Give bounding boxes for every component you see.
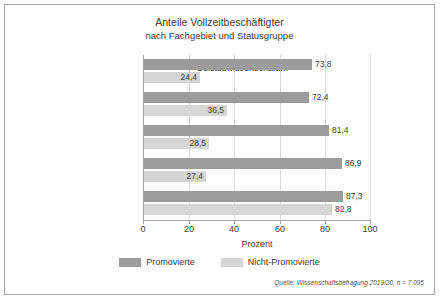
bar-group-ingenieurswissenschaften: 87,3 82,8 [144, 191, 371, 219]
bar-nicht-promovierte-sozialwissenschaften[interactable]: 36,5 [144, 105, 227, 116]
xtick-label-60: 60 [265, 224, 295, 234]
legend-swatch-nicht-promovierte [221, 258, 243, 267]
xtick-label-0: 0 [128, 224, 158, 234]
bar-value-nicht-promovierte-naturwissenschaften: 27,4 [186, 171, 203, 182]
xtick-label-80: 80 [310, 224, 340, 234]
bar-group-geisteswissenschaften: 73,8 24,4 [144, 59, 371, 87]
legend-item-nicht-promovierte[interactable]: Nicht-Promovierte [221, 257, 320, 267]
chart-frame: Anteile Vollzeitbeschäftigter nach Fachg… [4, 4, 435, 295]
plot-area: 73,8 24,4 72,4 36,5 81,4 28,5 [143, 55, 371, 220]
bar-nicht-promovierte-lebenswissenschaften[interactable]: 28,5 [144, 138, 209, 149]
bar-value-promovierte-geisteswissenschaften: 73,8 [315, 59, 332, 70]
bar-nicht-promovierte-ingenieurswissenschaften[interactable]: 82,8 [144, 204, 332, 215]
bar-promovierte-lebenswissenschaften[interactable]: 81,4 [144, 125, 329, 136]
bar-value-nicht-promovierte-lebenswissenschaften: 28,5 [189, 138, 206, 149]
bar-promovierte-naturwissenschaften[interactable]: 86,9 [144, 158, 342, 169]
bar-group-naturwissenschaften: 86,9 27,4 [144, 158, 371, 186]
bar-group-lebenswissenschaften: 81,4 28,5 [144, 125, 371, 153]
source-note: Quelle: Wissenschaftsbefragung 2019/20, … [274, 279, 424, 286]
bar-value-nicht-promovierte-sozialwissenschaften: 36,5 [207, 105, 224, 116]
x-axis-line [143, 220, 371, 221]
bar-nicht-promovierte-geisteswissenschaften[interactable]: 24,4 [144, 72, 200, 83]
chart-subtitle: nach Fachgebiet und Statusgruppe [5, 29, 434, 42]
bar-nicht-promovierte-naturwissenschaften[interactable]: 27,4 [144, 171, 206, 182]
legend: Promovierte Nicht-Promovierte [5, 257, 434, 267]
bar-value-nicht-promovierte-ingenieurswissenschaften: 82,8 [335, 204, 352, 215]
legend-label-nicht-promovierte: Nicht-Promovierte [248, 257, 320, 267]
chart-title: Anteile Vollzeitbeschäftigter [5, 15, 434, 29]
x-axis-title: Prozent [143, 239, 371, 249]
bar-value-nicht-promovierte-geisteswissenschaften: 24,4 [180, 72, 197, 83]
xtick-label-100: 100 [355, 224, 385, 234]
legend-item-promovierte[interactable]: Promovierte [119, 257, 195, 267]
chart-title-block: Anteile Vollzeitbeschäftigter nach Fachg… [5, 15, 434, 42]
xtick-label-40: 40 [219, 224, 249, 234]
bar-value-promovierte-lebenswissenschaften: 81,4 [332, 125, 349, 136]
legend-swatch-promovierte [119, 258, 141, 267]
bar-promovierte-ingenieurswissenschaften[interactable]: 87,3 [144, 191, 343, 202]
xtick-label-20: 20 [174, 224, 204, 234]
bar-group-sozialwissenschaften: 72,4 36,5 [144, 92, 371, 120]
legend-label-promovierte: Promovierte [146, 257, 195, 267]
bar-promovierte-geisteswissenschaften[interactable]: 73,8 [144, 59, 312, 70]
bar-value-promovierte-sozialwissenschaften: 72,4 [312, 92, 329, 103]
bar-value-promovierte-ingenieurswissenschaften: 87,3 [346, 191, 363, 202]
bar-value-promovierte-naturwissenschaften: 86,9 [345, 158, 362, 169]
bar-promovierte-sozialwissenschaften[interactable]: 72,4 [144, 92, 309, 103]
